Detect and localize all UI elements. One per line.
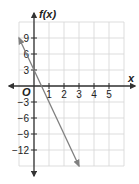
x-axis-label: x bbox=[127, 72, 135, 84]
origin-label: O bbox=[22, 86, 31, 98]
y-tick-label: −9 bbox=[18, 129, 30, 140]
y-tick-label: −3 bbox=[18, 97, 30, 108]
x-tick-label: 4 bbox=[91, 89, 97, 100]
y-tick-label: 3 bbox=[23, 65, 29, 76]
y-tick-label: −12 bbox=[12, 145, 29, 156]
y-tick-label: 9 bbox=[23, 33, 29, 44]
y-axis-label: f(x) bbox=[39, 8, 56, 20]
x-tick-label: 2 bbox=[61, 89, 67, 100]
x-tick-label: 3 bbox=[76, 89, 82, 100]
x-tick-label: 5 bbox=[106, 89, 112, 100]
y-tick-label: −6 bbox=[18, 113, 30, 124]
function-graph: 12345 963−3−6−9−12 x f(x) O bbox=[0, 0, 139, 184]
